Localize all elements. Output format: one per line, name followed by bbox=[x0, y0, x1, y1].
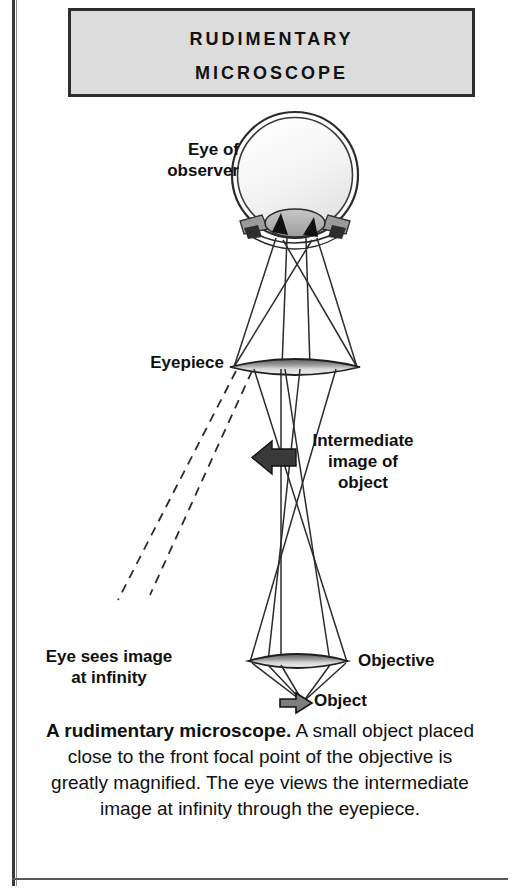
title-line-2: Microscope bbox=[195, 53, 348, 87]
microscope-ray-diagram bbox=[0, 95, 513, 720]
eyepiece-lens-graphic bbox=[230, 359, 360, 375]
label-intermediate-image: Intermediate image of object bbox=[300, 430, 426, 493]
title-plate: Rudimentary Microscope bbox=[68, 8, 475, 97]
page-frame-bottom-rule bbox=[12, 878, 508, 880]
label-objective: Objective bbox=[358, 650, 478, 671]
rays-objective-to-eyepiece bbox=[250, 369, 347, 662]
figure-page: Rudimentary Microscope bbox=[0, 0, 513, 893]
label-object: Object bbox=[314, 690, 406, 711]
eye-of-observer-graphic bbox=[232, 112, 358, 249]
title-line-1: Rudimentary bbox=[190, 19, 354, 53]
label-eyepiece: Eyepiece bbox=[120, 352, 224, 373]
virtual-rays-dashed bbox=[118, 371, 252, 600]
rays-eyepiece-to-eye bbox=[234, 238, 357, 367]
caption-lead: A rudimentary microscope. bbox=[46, 720, 291, 741]
label-eye-sees-image-at-infinity: Eye sees image at infinity bbox=[20, 646, 198, 688]
label-eye-of-observer: Eye of observer bbox=[131, 139, 239, 181]
objective-lens-graphic bbox=[248, 654, 348, 668]
figure-caption: A rudimentary microscope. A small object… bbox=[40, 718, 480, 822]
